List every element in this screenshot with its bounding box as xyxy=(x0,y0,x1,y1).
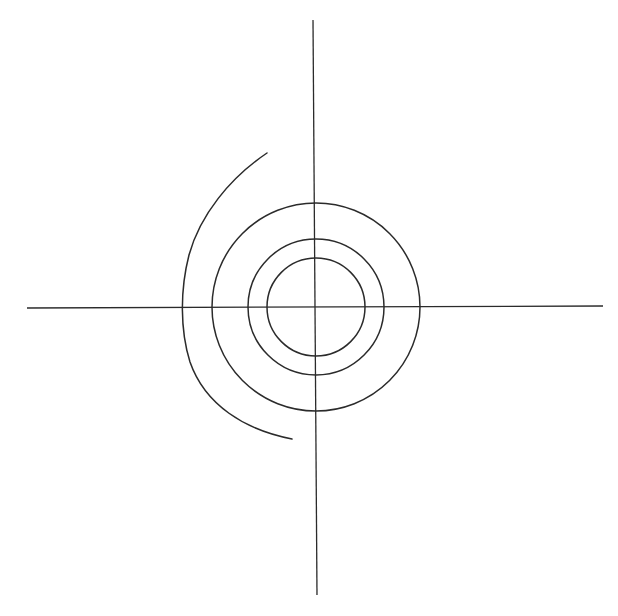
left-open-arc xyxy=(182,153,292,439)
concentric-circles-diagram xyxy=(0,0,618,616)
diagram-canvas xyxy=(0,0,618,616)
